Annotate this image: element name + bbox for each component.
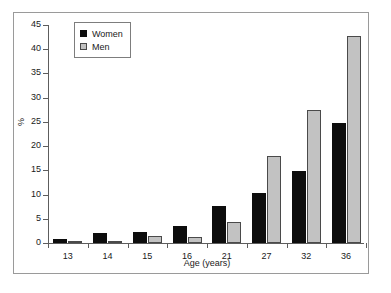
legend-label: Men [92,42,110,52]
bar-men-27 [267,156,281,243]
y-tick-label: 0 [36,236,41,248]
y-tick-label: 20 [31,139,41,151]
bar-women-13 [53,239,67,243]
y-axis-title: % [16,118,26,126]
x-axis-tick [366,243,367,248]
bar-women-16 [173,226,187,243]
bar-women-27 [252,193,266,243]
bar-women-15 [133,232,147,243]
bar-women-36 [332,123,346,243]
x-axis-tick [247,243,248,248]
y-tick-label: 45 [31,18,41,30]
x-axis-tick [207,243,208,248]
x-axis-tick [128,243,129,248]
x-axis-tick [287,243,288,248]
legend-label: Women [92,29,123,39]
chart-figure: 051015202530354045 % 1314151621273236 Ag… [0,0,391,293]
x-axis-tick [326,243,327,248]
bar-men-32 [307,110,321,243]
bar-group: 15 [128,25,168,243]
bar-men-21 [227,222,241,243]
chart-legend: WomenMen [74,22,131,58]
bar-men-15 [148,236,162,243]
bar-women-14 [93,233,107,243]
y-tick-label: 30 [31,91,41,103]
y-tick-label: 15 [31,163,41,175]
y-tick-label: 10 [31,188,41,200]
bar-men-16 [188,237,202,243]
bar-group: 36 [326,25,366,243]
bar-group: 16 [167,25,207,243]
bar-women-21 [212,206,226,243]
legend-item-men[interactable]: Men [80,40,123,53]
x-axis-tick [88,243,89,248]
bar-men-36 [347,36,361,243]
x-axis-tick [167,243,168,248]
x-axis-line [48,243,364,244]
bar-women-32 [292,171,306,243]
bar-men-13 [68,241,82,243]
y-tick-label: 35 [31,66,41,78]
y-tick-label: 40 [31,42,41,54]
bar-men-14 [108,241,122,243]
y-tick-label: 5 [36,212,41,224]
bar-group: 32 [287,25,327,243]
bar-group: 27 [247,25,287,243]
legend-swatch-women [80,30,87,37]
legend-swatch-men [80,43,87,50]
legend-item-women[interactable]: Women [80,27,123,40]
bar-group: 21 [207,25,247,243]
x-axis-title: Age (years) [48,258,366,268]
x-axis-tick [48,243,49,248]
y-tick-label: 25 [31,115,41,127]
